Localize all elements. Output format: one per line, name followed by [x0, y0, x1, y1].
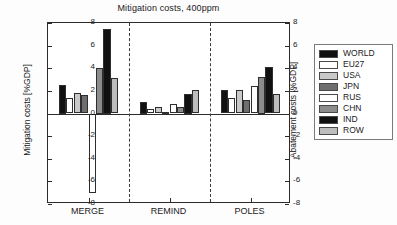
bar-remind-usa — [155, 107, 162, 113]
y-tick-mark-left — [48, 91, 52, 92]
group-divider — [129, 23, 130, 202]
legend-label: RUS — [343, 93, 361, 102]
y-tick-mark-left — [48, 181, 52, 182]
legend-item-row[interactable]: ROW — [319, 125, 388, 136]
legend-item-eu27[interactable]: EU27 — [319, 59, 388, 70]
y-tick-mark-left — [48, 23, 52, 24]
chart-title: Mitigation costs, 400ppm — [47, 3, 290, 13]
legend-swatch-rus — [319, 94, 338, 102]
chart-figure: Mitigation costs, 400ppm Mitigation cost… — [0, 0, 397, 225]
legend-item-usa[interactable]: USA — [319, 70, 388, 81]
y-tick-mark-right — [285, 23, 289, 24]
y-tick-label-left: 6 — [73, 41, 95, 49]
bar-poles-ind — [265, 67, 272, 113]
y-tick-label-left: 4 — [73, 63, 95, 71]
bar-merge-world — [59, 85, 66, 113]
y-tick-mark-right — [285, 181, 289, 182]
y-tick-mark-left — [48, 159, 52, 160]
bar-remind-jpn — [162, 112, 169, 114]
legend-label: IND — [343, 115, 358, 124]
bar-merge-ind — [103, 29, 110, 114]
y-tick-mark-left — [48, 68, 52, 69]
y-tick-label-right: 8 — [293, 18, 315, 26]
legend-swatch-world — [319, 50, 338, 58]
bar-remind-eu27 — [147, 109, 154, 114]
y-tick-mark-left — [48, 136, 52, 137]
bar-remind-ind — [184, 94, 191, 114]
legend-label: USA — [343, 71, 360, 80]
y-tick-mark-right — [285, 136, 289, 137]
bar-poles-eu27 — [228, 98, 235, 113]
y-tick-label-left: 8 — [73, 18, 95, 26]
legend-item-ind[interactable]: IND — [319, 114, 388, 125]
bar-remind-chn — [177, 107, 184, 114]
y-tick-mark-left — [48, 204, 52, 205]
bar-merge-chn — [96, 68, 103, 113]
legend-item-jpn[interactable]: JPN — [319, 81, 388, 92]
legend-swatch-chn — [319, 105, 338, 113]
bar-remind-world — [140, 102, 147, 113]
legend-label: WORLD — [343, 49, 375, 58]
bar-remind-rus — [170, 104, 177, 114]
bar-remind-row — [192, 90, 199, 113]
y-tick-mark-right — [285, 204, 289, 205]
y-tick-label-left: -6 — [73, 176, 95, 184]
legend-swatch-row — [319, 127, 338, 135]
legend-swatch-eu27 — [319, 61, 338, 69]
legend-label: JPN — [343, 82, 359, 91]
y-tick-label-right: 0 — [293, 109, 315, 117]
legend-label: ROW — [343, 126, 364, 135]
y-tick-label-left: 0 — [73, 109, 95, 117]
chart-legend: WORLDEU27USAJPNRUSCHNINDROW — [314, 44, 393, 140]
y-tick-label-right: 4 — [293, 63, 315, 71]
bar-poles-jpn — [243, 100, 250, 114]
bar-poles-chn — [258, 77, 265, 114]
y-tick-mark-right — [285, 91, 289, 92]
x-category-label: MERGE — [47, 206, 128, 216]
x-tick-mark — [251, 198, 252, 202]
x-category-label: POLES — [209, 206, 290, 216]
legend-swatch-jpn — [319, 83, 338, 91]
legend-swatch-usa — [319, 72, 338, 80]
y-tick-label-left: -2 — [73, 131, 95, 139]
y-tick-mark-left — [48, 46, 52, 47]
y-tick-label-right: 6 — [293, 41, 315, 49]
legend-item-rus[interactable]: RUS — [319, 92, 388, 103]
y-tick-mark-right — [285, 46, 289, 47]
y-tick-mark-right — [285, 68, 289, 69]
y-tick-mark-right — [285, 159, 289, 160]
legend-item-world[interactable]: WORLD — [319, 48, 388, 59]
legend-label: EU27 — [343, 60, 364, 69]
bar-poles-usa — [236, 90, 243, 113]
y-tick-label-left: -4 — [73, 154, 95, 162]
y-axis-label-left: Mitigation costs [%GDP] — [22, 25, 32, 195]
x-category-label: REMIND — [128, 206, 209, 216]
y-tick-label-right: -8 — [293, 199, 315, 207]
group-divider — [210, 23, 211, 202]
legend-item-chn[interactable]: CHN — [319, 103, 388, 114]
y-tick-mark-left — [48, 114, 52, 115]
bar-poles-world — [221, 90, 228, 113]
legend-swatch-ind — [319, 116, 338, 124]
bar-merge-row — [111, 78, 118, 113]
legend-label: CHN — [343, 104, 361, 113]
y-tick-label-right: -2 — [293, 131, 315, 139]
x-tick-mark — [170, 198, 171, 202]
y-tick-label-left: 2 — [73, 86, 95, 94]
y-tick-label-right: -4 — [293, 154, 315, 162]
bar-poles-row — [273, 94, 280, 113]
bar-poles-rus — [251, 86, 258, 114]
y-tick-label-right: -6 — [293, 176, 315, 184]
y-tick-label-right: 2 — [293, 86, 315, 94]
y-tick-mark-right — [285, 114, 289, 115]
